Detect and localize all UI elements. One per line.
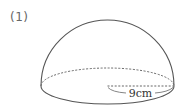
radius-label: 9cm [129, 87, 153, 100]
base-ellipse-hidden-edge [41, 68, 174, 86]
base-ellipse-visible-edge [41, 86, 174, 104]
radius-brace-left [108, 88, 126, 94]
hemisphere-dome-arc [41, 20, 174, 86]
hemisphere-diagram: 9cm [0, 0, 186, 109]
